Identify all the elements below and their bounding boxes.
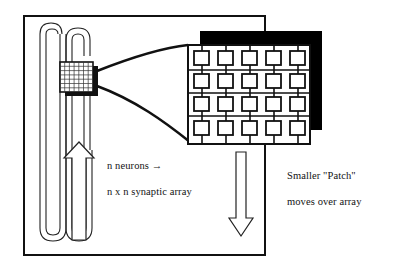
patch-movement-down-arrow [229, 152, 253, 236]
label-synaptic-array: n x n synaptic array [107, 186, 192, 197]
scan-direction-up-arrow [64, 142, 94, 240]
magnifier-connector-lines [97, 45, 190, 142]
label-moves-over-array: moves over array [287, 196, 362, 207]
label-smaller-patch: Smaller "Patch" [287, 170, 356, 181]
diagram-vector-layer [0, 0, 395, 272]
label-n-neurons: n neurons → [107, 160, 162, 171]
diagram-canvas: n neurons → n x n synaptic array Smaller… [0, 0, 395, 272]
synaptic-array-panel[interactable] [188, 45, 310, 144]
patch-window[interactable] [60, 62, 98, 96]
